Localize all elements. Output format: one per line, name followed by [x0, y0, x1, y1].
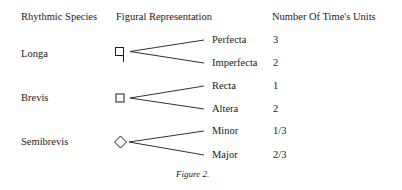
longa-square-with-stem-icon	[116, 48, 124, 63]
branch-label-major: Major	[212, 149, 238, 161]
brevis-branch-lines	[130, 86, 204, 109]
branch-label-imperfecta: Imperfecta	[212, 57, 257, 69]
figure-caption: Figure 2.	[176, 168, 209, 180]
semibrevis-branch-lines	[129, 131, 204, 155]
species-label-longa: Longa	[21, 48, 48, 60]
units-recta: 1	[273, 80, 278, 92]
species-label-brevis: Brevis	[21, 92, 48, 104]
longa-branch-lines	[130, 40, 204, 63]
branch-label-minor: Minor	[212, 125, 238, 137]
branch-label-perfecta: Perfecta	[212, 34, 246, 46]
branch-label-recta: Recta	[212, 80, 236, 92]
units-major: 2/3	[273, 149, 286, 161]
units-perfecta: 3	[273, 34, 278, 46]
brevis-square-icon	[116, 94, 124, 102]
units-altera: 2	[273, 103, 278, 115]
branch-label-altera: Altera	[212, 103, 238, 115]
units-imperfecta: 2	[273, 57, 278, 69]
branch-diagram	[0, 0, 402, 190]
units-minor: 1/3	[273, 125, 286, 137]
semibrevis-diamond-icon	[115, 136, 127, 148]
species-label-semibrevis: Semibrevis	[21, 136, 68, 148]
